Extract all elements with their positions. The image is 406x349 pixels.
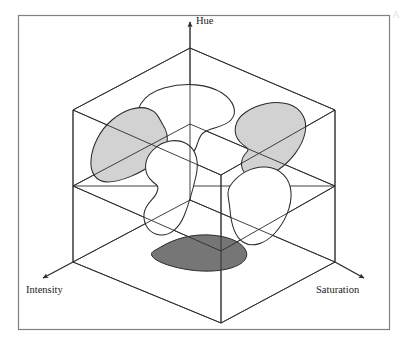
saturation-axis-label: Saturation (316, 284, 360, 295)
figure-root: Hue Intensity Saturation A (0, 0, 406, 349)
figure-frame (19, 16, 390, 330)
intensity-axis-label: Intensity (26, 284, 63, 295)
hue-axis-label: Hue (196, 15, 214, 26)
margin-caption-mark: A (392, 8, 400, 20)
hsi-color-space-diagram: Hue Intensity Saturation A (0, 0, 406, 349)
